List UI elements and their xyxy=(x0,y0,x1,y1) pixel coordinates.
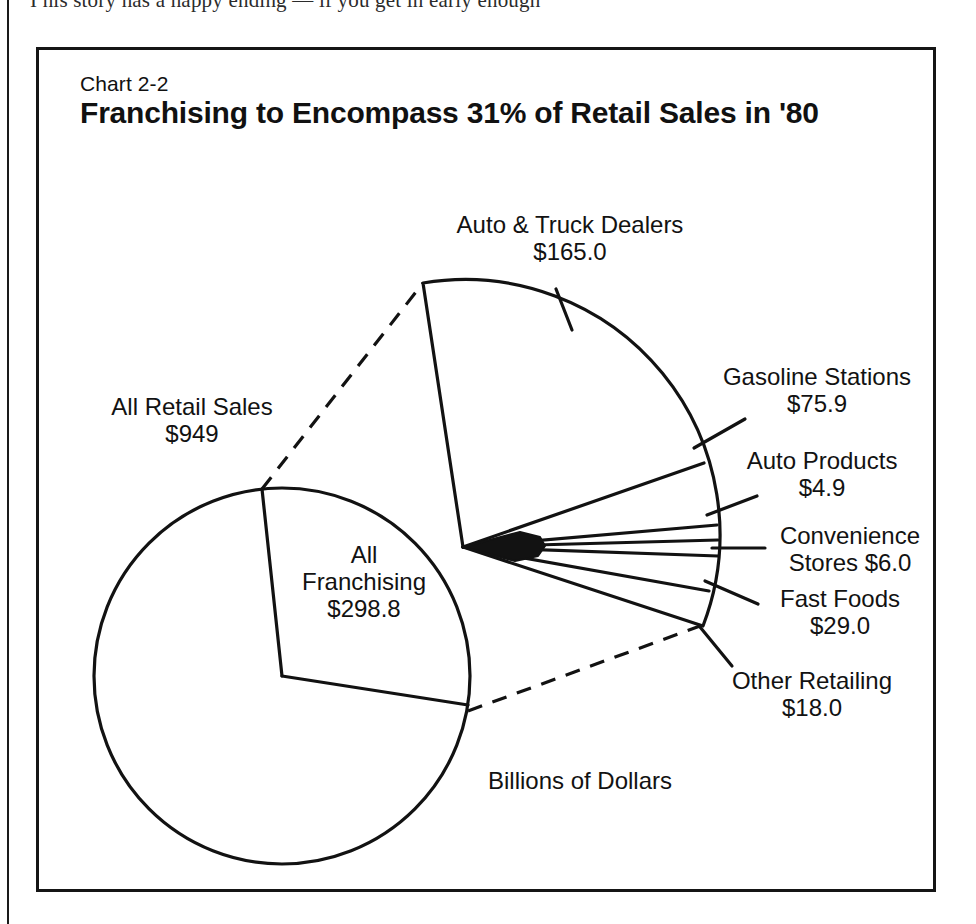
label-all-franchising-value: $298.8 xyxy=(268,596,460,623)
label-other-retailing-name: Other Retailing xyxy=(732,667,892,694)
label-auto-products: Auto Products $4.9 xyxy=(714,448,930,502)
fan-apex-ink xyxy=(463,532,545,561)
leader-other-retailing xyxy=(700,627,732,666)
wedge-radius-end xyxy=(282,676,468,705)
label-fast-foods: Fast Foods $29.0 xyxy=(744,586,936,640)
label-auto-products-name: Auto Products xyxy=(747,447,898,474)
explode-leader-upper xyxy=(262,283,423,489)
label-gasoline-stations-value: $75.9 xyxy=(692,391,942,418)
label-convenience-stores: Convenience Stores $6.0 xyxy=(742,523,958,577)
label-all-franchising-name2: Franchising xyxy=(268,569,460,596)
scanned-page: I his story has a happy ending — if you … xyxy=(0,0,976,924)
label-auto-truck-dealers: Auto & Truck Dealers $165.0 xyxy=(424,212,716,266)
label-all-retail-sales: All Retail Sales $949 xyxy=(58,394,326,448)
fan-divider-auto-truck-gasoline xyxy=(463,463,704,547)
explode-leader-lower xyxy=(468,626,700,711)
label-convenience-stores-name2: Stores $6.0 xyxy=(742,550,958,577)
label-convenience-stores-name: Convenience xyxy=(780,522,920,549)
label-all-franchising: All Franchising $298.8 xyxy=(268,542,460,623)
label-auto-truck-dealers-value: $165.0 xyxy=(424,239,716,266)
leader-auto-truck-dealers xyxy=(556,289,572,330)
label-auto-truck-dealers-name: Auto & Truck Dealers xyxy=(457,211,684,238)
leader-gasoline-stations xyxy=(694,419,745,448)
label-all-retail-sales-value: $949 xyxy=(58,421,326,448)
label-other-retailing: Other Retailing $18.0 xyxy=(694,668,930,722)
label-fast-foods-name: Fast Foods xyxy=(780,585,900,612)
label-fast-foods-value: $29.0 xyxy=(744,613,936,640)
label-all-retail-sales-name: All Retail Sales xyxy=(111,393,272,420)
label-auto-products-value: $4.9 xyxy=(714,475,930,502)
label-other-retailing-value: $18.0 xyxy=(694,695,930,722)
units-caption: Billions of Dollars xyxy=(430,768,730,795)
label-gasoline-stations-name: Gasoline Stations xyxy=(723,363,911,390)
label-all-franchising-name: All xyxy=(351,541,378,568)
label-gasoline-stations: Gasoline Stations $75.9 xyxy=(692,364,942,418)
